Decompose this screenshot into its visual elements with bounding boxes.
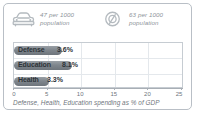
bar-label-health: Health: [18, 76, 39, 83]
x-axis-line: [13, 88, 183, 89]
stat-telephones-label: 63 per 1000 population: [129, 11, 163, 26]
bar-row-defense: Defense 3.6%: [14, 43, 182, 58]
x-tick-label-20: 20: [144, 91, 151, 97]
x-tick-label-25: 25: [176, 91, 183, 97]
x-axis: 0 5 10 15 20 25: [13, 88, 183, 98]
bar-value-health: 3.3%: [47, 76, 63, 83]
x-tick-label-0: 0: [12, 91, 15, 97]
stat-vehicles: 47 per 1000 population: [11, 8, 74, 30]
bar-value-education: 8.1%: [62, 61, 78, 68]
bar-chart-plot: Defense 3.6% Education 8.1% Health 3.3%: [13, 42, 183, 88]
telephone-dial-icon: [100, 8, 125, 30]
car-icon: [11, 8, 36, 30]
stats-row: 47 per 1000 population 63 per 1000 popul…: [4, 8, 191, 38]
infographic-card: 47 per 1000 population 63 per 1000 popul…: [3, 3, 192, 110]
stat-telephones: 63 per 1000 population: [100, 8, 163, 30]
bar-label-education: Education: [18, 61, 51, 68]
stat-vehicles-label: 47 per 1000 population: [40, 11, 74, 26]
bar-value-defense: 3.6%: [57, 46, 73, 53]
x-tick-label-5: 5: [45, 91, 48, 97]
chart-caption: Defense, Health, Education spending as %…: [13, 99, 185, 106]
bar-row-education: Education 8.1%: [14, 58, 182, 73]
x-tick-label-10: 10: [77, 91, 84, 97]
x-tick-label-15: 15: [110, 91, 117, 97]
bar-label-defense: Defense: [18, 46, 45, 53]
bar-row-health: Health 3.3%: [14, 74, 182, 89]
